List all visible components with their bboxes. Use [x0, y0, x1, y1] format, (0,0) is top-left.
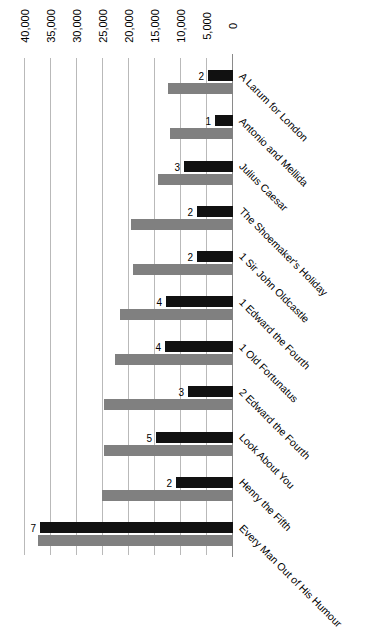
bar-value-label: 4: [156, 297, 162, 308]
bar-edition: [156, 432, 233, 443]
chart-row: 1: [25, 103, 233, 148]
category-label: Every Man Out of His Humour: [237, 522, 344, 629]
bar-total: [115, 354, 233, 365]
bar-value-label: 7: [30, 523, 36, 534]
bar-total: [131, 219, 233, 230]
bar-edition: [165, 341, 233, 352]
bar-edition: [176, 477, 233, 488]
bar-edition: [215, 115, 233, 126]
axis-tick-label: 0: [227, 1, 239, 51]
chart-row: 4: [25, 284, 233, 329]
bar-total: [168, 83, 233, 94]
bar-value-label: 3: [178, 387, 184, 398]
bar-value-label: 2: [188, 207, 194, 218]
chart-row: 2: [25, 239, 233, 284]
chart-row: 2: [25, 58, 233, 103]
axis-tick-label: 35,000: [45, 1, 57, 51]
bar-edition: [188, 386, 233, 397]
bar-total: [158, 174, 233, 185]
bar-edition: [166, 296, 233, 307]
bar-value-label: 2: [166, 478, 172, 489]
bar-total: [104, 445, 233, 456]
bar-value-label: 1: [205, 116, 211, 127]
axis-tick-label: 5,000: [201, 1, 213, 51]
bar-value-label: 2: [198, 71, 204, 82]
bar-edition: [40, 522, 233, 533]
axis-tick-label: 20,000: [123, 1, 135, 51]
bar-edition: [208, 70, 233, 81]
chart-row: 5: [25, 419, 233, 464]
bar-value-label: 5: [146, 433, 152, 444]
bar-value-label: 2: [188, 252, 194, 263]
chart-row: 3: [25, 374, 233, 419]
category-label: The Shoemaker's Holiday: [237, 206, 330, 299]
bar-edition: [184, 161, 233, 172]
bar-total: [104, 399, 233, 410]
chart-row: 2: [25, 465, 233, 510]
axis-tick-label: 30,000: [71, 1, 83, 51]
bar-value-label: 3: [175, 162, 181, 173]
bar-total: [133, 264, 233, 275]
axis-tick-label: 10,000: [175, 1, 187, 51]
bar-value-label: 4: [156, 342, 162, 353]
bar-edition: [197, 206, 233, 217]
bar-total: [102, 490, 233, 501]
axis-tick-label: 15,000: [149, 1, 161, 51]
axis-tick-label: 25,000: [97, 1, 109, 51]
bar-total: [170, 128, 233, 139]
bar-total: [38, 535, 233, 546]
chart-row: 7: [25, 510, 233, 555]
chart-row: 3: [25, 148, 233, 193]
bar-edition: [197, 251, 233, 262]
bar-total: [120, 309, 233, 320]
axis-tick-label: 40,000: [19, 1, 31, 51]
chart-row: 2: [25, 194, 233, 239]
plot-area: 72534422312: [25, 58, 233, 555]
chart-row: 4: [25, 329, 233, 374]
